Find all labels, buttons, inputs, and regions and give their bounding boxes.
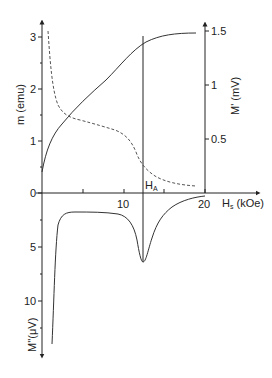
- x-axis-title: Hs (kOe): [222, 197, 264, 210]
- series-m-double-prime: [52, 196, 205, 344]
- left-tick-0: 0: [30, 187, 36, 199]
- x-tick-10: 10: [117, 198, 129, 210]
- left-tick-1: 1: [30, 135, 36, 147]
- right-tick-1.5: 1.5: [211, 25, 226, 37]
- right-tick-1: 1: [211, 79, 217, 91]
- left-upper-ticks: [38, 37, 42, 193]
- left-lower-axis-title: M''(μV): [26, 318, 38, 352]
- right-tick-0.5: 0.5: [211, 133, 226, 145]
- left-upper-axis-title: m (emu): [14, 84, 26, 125]
- right-axis-ticks: [205, 31, 209, 139]
- x-tick-20: 20: [198, 198, 210, 210]
- right-axis-title: M' (mV): [229, 77, 241, 115]
- series-m-prime: [48, 31, 196, 186]
- lower-tick-5: 5: [30, 241, 36, 253]
- left-lower-ticks: [38, 220, 42, 328]
- chart-canvas: 0 1 2 3 m (emu) 5 10 M''(μV) 0.5 1 1.5 M…: [0, 0, 272, 378]
- ha-label: HA: [145, 179, 158, 192]
- lower-tick-10: 10: [24, 295, 36, 307]
- left-tick-2: 2: [30, 83, 36, 95]
- x-axis-ticks: [83, 189, 205, 193]
- left-tick-3: 3: [30, 31, 36, 43]
- series-m-emu: [42, 33, 196, 172]
